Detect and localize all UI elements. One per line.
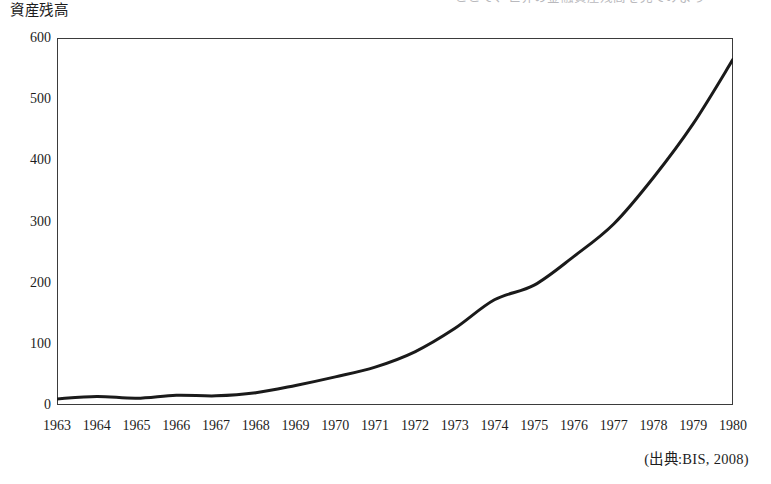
y-tick-label-600: 600 bbox=[17, 31, 51, 45]
y-axis-tick-labels: 0100200300400500600 bbox=[5, 0, 51, 484]
plot-frame bbox=[58, 39, 733, 405]
y-tick-label-400: 400 bbox=[17, 153, 51, 167]
y-tick-label-100: 100 bbox=[17, 337, 51, 351]
plot-area bbox=[57, 38, 733, 405]
chart-figure: ここで、世界の金融資産残高を見てみよう 資産残高 010020030040050… bbox=[0, 0, 771, 484]
y-tick-label-300: 300 bbox=[17, 215, 51, 229]
x-axis-tick-labels: 1963196419651966196719681969197019711972… bbox=[0, 418, 771, 440]
y-tick-label-200: 200 bbox=[17, 276, 51, 290]
chart-svg bbox=[57, 38, 733, 405]
source-note: (出典:BIS, 2008) bbox=[644, 450, 749, 468]
x-tick-label-1980: 1980 bbox=[710, 418, 756, 434]
y-tick-label-500: 500 bbox=[17, 92, 51, 106]
cut-off-header-text: ここで、世界の金融資産残高を見てみよう bbox=[455, 0, 765, 3]
y-tick-label-0: 0 bbox=[17, 398, 51, 412]
